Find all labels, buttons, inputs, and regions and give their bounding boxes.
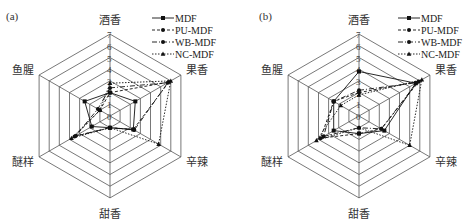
tick-label: 1: [107, 100, 112, 110]
data-point: [83, 99, 87, 103]
axis-label: 果香: [435, 64, 457, 76]
legend-entry: NC-MDF: [175, 49, 214, 60]
tick-label: 7: [107, 30, 112, 40]
radar-figure: 01234567酒香果香辛辣甜香醚样鱼腥(a)MDFPU-MDFWB-MDFNC…: [0, 0, 469, 219]
axis-label: 鱼腥: [12, 63, 34, 76]
axis-label: 甜香: [99, 208, 121, 219]
tick-label: 5: [107, 54, 112, 64]
axis-spoke: [288, 75, 359, 116]
axis-label: 醚样: [12, 155, 34, 168]
data-point: [420, 77, 425, 81]
axis-label: 鱼腥: [261, 63, 283, 76]
data-point: [332, 129, 336, 133]
figure: 01234567酒香果香辛辣甜香醚样鱼腥(a)MDFPU-MDFWB-MDFNC…: [0, 0, 469, 219]
axis-label: 酒香: [99, 14, 121, 26]
tick-label: 7: [356, 30, 361, 40]
axis-label: 辛辣: [435, 155, 457, 168]
legend: MDFPU-MDFWB-MDFNC-MDF: [398, 13, 463, 60]
axis-label: 酒香: [348, 14, 370, 26]
legend-entry: NC-MDF: [421, 49, 460, 60]
tick-label: 6: [356, 42, 361, 52]
legend-entry: MDF: [421, 13, 443, 24]
legend-entry: MDF: [175, 13, 197, 24]
panel-label: (a): [6, 10, 19, 23]
axis-label: 辛辣: [186, 155, 208, 168]
tick-label: 0: [107, 112, 112, 122]
axis-label: 醚样: [261, 155, 283, 168]
axis-label: 果香: [186, 64, 208, 76]
data-point: [332, 99, 336, 103]
data-point: [90, 125, 94, 129]
tick-label: 6: [107, 42, 112, 52]
data-point: [132, 128, 136, 132]
data-point: [357, 70, 361, 74]
data-point: [322, 134, 326, 138]
tick-label: 5: [356, 54, 361, 64]
tick-label: 1: [356, 100, 361, 110]
data-point: [357, 132, 361, 136]
radar-panel-a: 01234567酒香果香辛辣甜香醚样鱼腥(a)MDFPU-MDFWB-MDFNC…: [6, 10, 217, 219]
series-line: [334, 72, 416, 134]
legend-entry: PU-MDF: [421, 25, 459, 36]
axis-spoke: [110, 116, 181, 157]
radar-panel-b: 01234567酒香果香辛辣甜香醚样鱼腥(b)MDFPU-MDFWB-MDFNC…: [259, 10, 463, 219]
tick-label: 0: [356, 112, 361, 122]
axis-label: 甜香: [348, 208, 370, 219]
tick-label: 3: [356, 77, 361, 87]
legend: MDFPU-MDFWB-MDFNC-MDF: [152, 13, 217, 60]
data-point: [379, 127, 383, 131]
data-point: [357, 88, 361, 92]
panel-label: (b): [259, 10, 272, 23]
legend-entry: WB-MDF: [421, 37, 463, 48]
axis-spoke: [359, 116, 430, 157]
data-point: [133, 99, 137, 103]
legend-entry: PU-MDF: [175, 25, 213, 36]
legend-entry: WB-MDF: [175, 37, 217, 48]
tick-label: 4: [107, 65, 112, 75]
